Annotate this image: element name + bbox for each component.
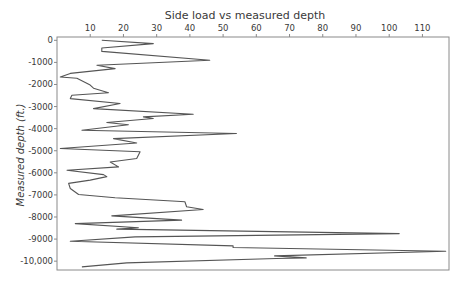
x-tick-label: 90 <box>351 23 362 33</box>
y-tick-label: 0 <box>48 35 53 45</box>
y-tick-label: -9000 <box>28 234 53 244</box>
x-tick-label: 80 <box>317 23 328 33</box>
y-tick-label: -7000 <box>28 190 53 200</box>
x-axis-ticks: 102030405060708090100110 <box>85 23 431 37</box>
side-load-line <box>60 40 445 267</box>
y-tick-label: -1000 <box>28 57 53 67</box>
y-tick-label: -5000 <box>28 146 53 156</box>
y-tick-label: -3000 <box>28 102 53 112</box>
y-tick-label: -6000 <box>28 168 53 178</box>
x-tick-label: 70 <box>284 23 295 33</box>
y-tick-label: -10,000 <box>20 256 53 266</box>
x-tick-label: 10 <box>85 23 96 33</box>
x-tick-label: 30 <box>151 23 162 33</box>
x-tick-label: 60 <box>251 23 262 33</box>
y-axis-label: Measured depth (ft.) <box>15 104 26 207</box>
y-tick-label: -8000 <box>28 212 53 222</box>
x-tick-label: 100 <box>381 23 397 33</box>
x-tick-label: 110 <box>414 23 430 33</box>
x-tick-label: 50 <box>218 23 229 33</box>
y-tick-label: -2000 <box>28 79 53 89</box>
chart-title: Side load vs measured depth <box>165 9 326 22</box>
chart: Side load vs measured depth 102030405060… <box>0 0 461 285</box>
x-tick-label: 40 <box>184 23 195 33</box>
x-tick-label: 20 <box>118 23 129 33</box>
y-tick-label: -4000 <box>28 124 53 134</box>
